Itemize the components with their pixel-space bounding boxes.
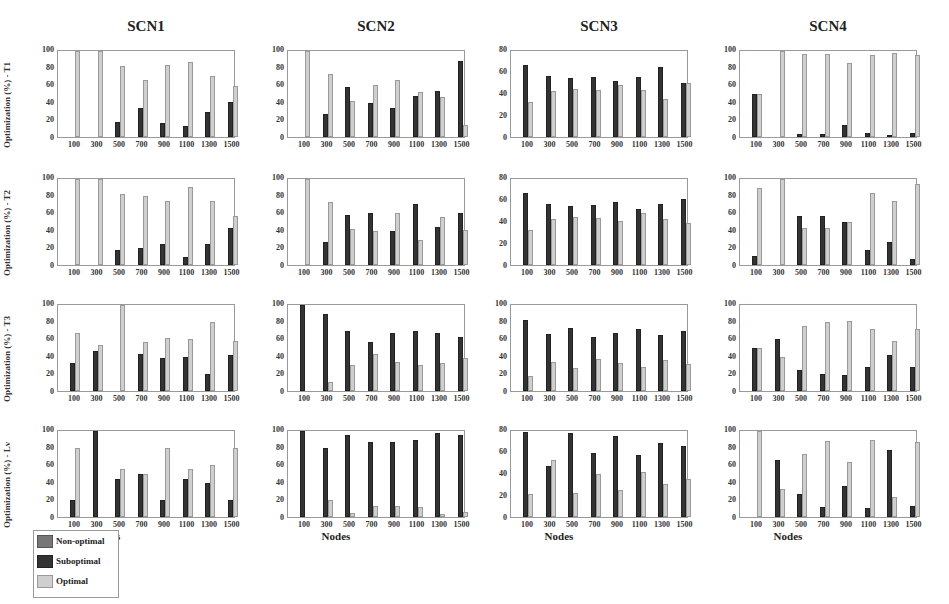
y-tick-label: 20 [266,369,284,378]
legend-swatch-optimal [37,575,53,588]
y-tick-label: 20 [718,369,736,378]
bar-optimal [373,231,378,265]
bar-optimal [75,51,80,137]
bar-optimal [573,89,578,137]
bar-optimal [551,460,556,517]
bar-optimal [686,83,691,137]
y-tick-label: 60 [266,460,284,469]
y-tick-label: 80 [266,317,284,326]
bar-optimal [825,54,830,137]
y-tick-label: 60 [718,80,736,89]
bar-optimal [120,305,125,391]
y-tick-label: 100 [266,173,284,182]
x-tick-label: 1500 [449,520,475,529]
y-tick-label: 0 [266,133,284,142]
bar-optimal [143,342,148,391]
y-tick-label: 0 [718,387,736,396]
bar-optimal [418,365,423,391]
y-tick-label: 20 [36,495,54,504]
y-tick-label: 80 [489,45,507,54]
plot-area [510,430,688,518]
bar-optimal [350,365,355,391]
x-tick-label: 1500 [672,268,698,277]
bar-optimal [528,230,533,265]
y-tick-label: 80 [266,191,284,200]
bar-optimal [757,348,762,391]
y-tick-label: 20 [266,115,284,124]
bar-optimal [686,479,691,517]
y-tick-label: 40 [266,478,284,487]
y-tick-label: 60 [718,208,736,217]
bar-optimal [915,329,920,391]
bar-optimal [573,493,578,517]
bar-optimal [528,494,533,517]
y-tick-label: 0 [718,513,736,522]
y-tick-label: 100 [266,425,284,434]
y-tick-label: 20 [718,495,736,504]
bar-optimal [802,454,807,517]
y-tick-label: 80 [266,443,284,452]
y-tick-label: 20 [718,243,736,252]
plot-area [739,304,917,392]
bar-optimal [528,102,533,137]
bar-optimal [641,472,646,517]
bar-optimal [395,362,400,391]
y-tick-label: 40 [266,226,284,235]
bar-optimal [686,364,691,391]
y-tick-label: 20 [266,243,284,252]
y-tick-label: 40 [718,352,736,361]
y-tick-label: 60 [36,460,54,469]
bar-suboptimal [458,435,463,517]
bar-optimal [757,94,762,137]
bar-optimal [641,90,646,137]
bar-optimal [892,341,897,391]
bar-optimal [780,357,785,391]
bar-optimal [573,368,578,391]
bar-optimal [440,217,445,265]
bar-optimal [870,329,875,391]
bar-optimal [551,91,556,137]
y-tick-label: 80 [36,317,54,326]
bar-suboptimal [300,305,305,391]
y-tick-label: 60 [36,334,54,343]
bar-optimal [757,188,762,265]
bar-optimal [373,354,378,391]
y-tick-label: 100 [718,45,736,54]
bar-optimal [618,490,623,517]
y-tick-label: 100 [36,299,54,308]
bar-optimal [663,99,668,137]
bar-optimal [440,363,445,391]
bar-optimal [305,51,310,137]
y-tick-label: 20 [489,491,507,500]
bar-optimal [328,202,333,265]
y-tick-label: 40 [718,478,736,487]
y-tick-label: 100 [718,173,736,182]
bar-optimal [463,125,468,137]
bar-optimal [75,333,80,391]
x-axis-label: Nodes [510,530,608,542]
y-tick-label: 20 [266,495,284,504]
y-axis-label: Optimization (%) - T2 [2,190,12,276]
y-tick-label: 80 [489,173,507,182]
bar-optimal [780,51,785,137]
x-tick-label: 1500 [219,520,245,529]
y-tick-label: 0 [36,261,54,270]
bar-optimal [143,196,148,265]
bar-optimal [915,442,920,517]
bar-optimal [596,359,601,391]
bar-optimal [825,322,830,391]
y-tick-label: 40 [36,478,54,487]
legend-item-non-optimal: Non-optimal [34,531,118,551]
bar-optimal [757,431,762,517]
bar-optimal [915,55,920,137]
y-tick-label: 60 [489,67,507,76]
y-tick-label: 20 [36,369,54,378]
y-tick-label: 80 [489,425,507,434]
y-tick-label: 80 [489,317,507,326]
y-tick-label: 100 [718,299,736,308]
bar-suboptimal [435,433,440,517]
y-tick-label: 60 [266,208,284,217]
y-tick-label: 0 [489,133,507,142]
chart-title: SCN1 [57,18,235,35]
legend-item-optimal: Optimal [34,571,118,591]
